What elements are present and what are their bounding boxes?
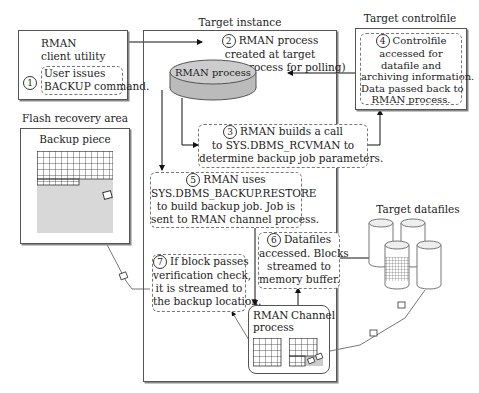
backup-block-grid [37,151,113,191]
channel-box: RMAN process Channel [248,305,330,374]
channel-buffer-grid [289,338,325,368]
client-subtitle: client utility [41,50,105,63]
rman-buffer-grid [253,338,283,368]
channel-label: Channel [291,309,335,322]
step-6-box: 6Datafiles accessed. Blocks streamed to … [258,232,340,289]
client-title: RMAN [41,37,76,50]
flash-recovery-title: Flash recovery area [20,112,130,125]
backup-piece-box: Backup piece [20,128,130,244]
step-4-box: 4Controlfile accessed for datafile and a… [360,33,462,105]
controlfile-box: 4Controlfile accessed for datafile and a… [355,28,467,110]
client-utility-box: RMAN client utility 1 User issues BACKUP… [18,30,128,100]
step-1-number: 1 [23,71,40,90]
step-7-box: 7If block passes verification check, it … [152,254,246,312]
backup-piece-title: Backup piece [21,133,129,146]
controlfile-title: Target controlfile [355,12,465,25]
target-instance-title: Target instance [150,16,330,29]
step-5-box: 5RMAN uses SYS.DBMS_BACKUP.RESTORE to bu… [150,172,302,228]
rman-process-label: RMAN process [168,66,258,79]
rman-process-cylinder [168,58,258,102]
datafile-cylinders [365,215,479,295]
step-1-box: User issues BACKUP command. [41,66,123,95]
channel-process-label: process [253,321,294,334]
step-3-box: 3RMAN builds a call to SYS.DBMS_RCVMAN t… [198,124,368,168]
